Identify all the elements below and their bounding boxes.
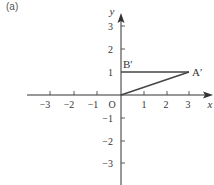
y-tick-label: −3: [102, 158, 113, 169]
y-tick-label: −1: [102, 113, 113, 124]
segment-o-a-prime: [121, 72, 189, 95]
x-tick-label: 1: [142, 99, 147, 110]
x-tick-label: −3: [40, 99, 51, 110]
x-ticks: [50, 91, 189, 95]
coordinate-plane: −3 −2 −1 O 1 2 3 x 3 2 1 −1 −2 −3 y B′ A…: [0, 0, 214, 185]
origin-label: O: [108, 99, 115, 110]
y-tick-label: 1: [108, 67, 113, 78]
point-label-b-prime: B′: [123, 58, 133, 70]
x-tick-label: −2: [64, 99, 75, 110]
x-axis-label: x: [207, 98, 213, 110]
y-tick-label: −2: [102, 136, 113, 147]
y-tick-label: 2: [108, 44, 113, 55]
y-axis-label: y: [109, 5, 115, 17]
y-tick-label: 3: [108, 21, 113, 32]
x-tick-label: −1: [88, 99, 99, 110]
x-tick-label: 3: [186, 99, 191, 110]
x-tick-label: 2: [164, 99, 169, 110]
point-label-a-prime: A′: [192, 66, 202, 78]
